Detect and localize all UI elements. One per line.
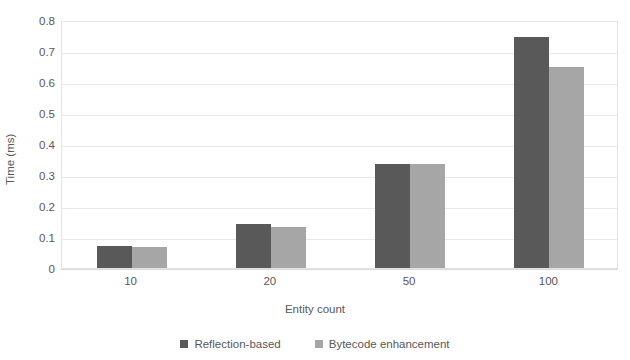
x-axis-line	[61, 269, 618, 270]
y-axis-tick-label: 0.7	[0, 46, 55, 58]
bar	[132, 247, 167, 268]
legend-label: Reflection-based	[194, 338, 280, 350]
bar	[514, 37, 549, 268]
y-axis-title-label: Time (ms)	[4, 171, 16, 185]
bar-group	[375, 22, 445, 268]
bar	[549, 67, 584, 269]
x-axis-tick-labels: 102050100	[61, 275, 618, 295]
legend-item[interactable]: Reflection-based	[180, 338, 280, 350]
x-axis-tick-label: 20	[263, 275, 276, 287]
y-axis-tick-label: 0.2	[0, 201, 55, 213]
legend-label: Bytecode enhancement	[329, 338, 450, 350]
bar-group	[514, 22, 584, 268]
y-axis-tick-label: 0	[0, 263, 55, 275]
legend-item[interactable]: Bytecode enhancement	[315, 338, 450, 350]
legend-swatch-icon	[315, 340, 323, 348]
y-axis-tick-label: 0.6	[0, 77, 55, 89]
plot-area	[61, 21, 618, 269]
y-axis-title: Time (ms)	[4, 93, 16, 107]
x-axis-tick-label: 10	[124, 275, 137, 287]
bar	[410, 164, 445, 268]
x-axis-tick-label: 50	[403, 275, 416, 287]
bar	[271, 227, 306, 268]
bar	[375, 164, 410, 268]
y-axis-tick-label: 0.5	[0, 108, 55, 120]
bar	[97, 246, 132, 268]
bar-group	[97, 22, 167, 268]
chart-title-clipped	[0, 0, 630, 4]
legend: Reflection-basedBytecode enhancement	[0, 338, 630, 350]
bar	[236, 224, 271, 268]
x-axis-tick-label: 100	[539, 275, 558, 287]
y-axis-tick-label: 0.1	[0, 232, 55, 244]
bar-chart: 00.10.20.30.40.50.60.70.8 Time (ms) 1020…	[0, 0, 630, 360]
legend-swatch-icon	[180, 340, 188, 348]
y-axis-tick-label: 0.8	[0, 15, 55, 27]
x-axis-title: Entity count	[0, 303, 630, 315]
bar-group	[236, 22, 306, 268]
